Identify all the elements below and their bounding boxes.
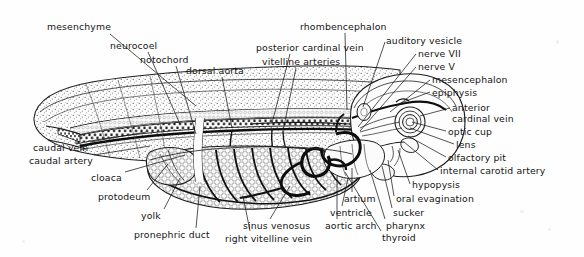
label-olfactory-pit: olfactory pit (448, 153, 506, 164)
label-yolk: yolk (141, 211, 161, 222)
label-protodeum: protodeum (98, 192, 150, 203)
label-mesenchyme: mesenchyme (47, 22, 111, 33)
label-cloaca: cloaca (91, 173, 122, 184)
label-caudal-artery: caudal artery (29, 156, 93, 167)
label-thyroid: thyroid (382, 233, 416, 244)
label-rhombencephalon: rhombencephalon (300, 22, 387, 33)
label-auditory-vesicle: auditory vesicle (386, 36, 462, 47)
label-anterior-cardinal-vein: anterior (452, 103, 490, 114)
label-anterior-cardinal-vein2: cardinal vein (452, 114, 514, 125)
label-ventricle: ventricle (330, 208, 372, 219)
embryo-diagram-figure: mesenchymeneurocoelnotochorddorsal aorta… (0, 0, 584, 257)
label-caudal-vein: caudal vein (33, 143, 88, 154)
label-pronephric-duct: pronephric duct (134, 230, 210, 241)
label-notochord: notochord (140, 55, 189, 66)
cloaca-protodeum-region (146, 148, 197, 186)
label-sucker: sucker (393, 208, 424, 219)
scan-speck (548, 228, 551, 231)
label-aortic-arch: aortic arch (325, 221, 376, 232)
label-internal-carotid-artery: internal carotid artery (440, 166, 545, 177)
embryo-drawing (0, 0, 584, 257)
label-oral-evagination: oral evagination (396, 194, 474, 205)
scan-speck (556, 40, 559, 44)
label-vitelline-arteries: vitelline arteries (262, 57, 340, 68)
label-nerve-vii: nerve VII (418, 49, 461, 60)
label-artium: artium (344, 194, 376, 205)
label-lens: lens (456, 140, 476, 151)
label-hypopysis: hypopysis (412, 180, 460, 191)
label-pharynx: pharynx (386, 221, 425, 232)
label-nerve-v: nerve V (418, 62, 455, 73)
label-posterior-cardinal-vein: posterior cardinal vein (256, 43, 364, 54)
label-neurocoel: neurocoel (110, 41, 157, 52)
label-right-vitelline-vein: right vitelline vein (225, 234, 312, 245)
label-sinus-venosus: sinus venosus (243, 221, 310, 232)
scan-speck (520, 210, 524, 213)
label-epiphysis: epiphysis (432, 88, 477, 99)
label-optic-cup: optic cup (448, 127, 492, 138)
label-dorsal-aorta: dorsal aorta (186, 66, 244, 77)
scan-speck (22, 240, 25, 243)
label-mesencephalon: mesencephalon (432, 75, 508, 86)
